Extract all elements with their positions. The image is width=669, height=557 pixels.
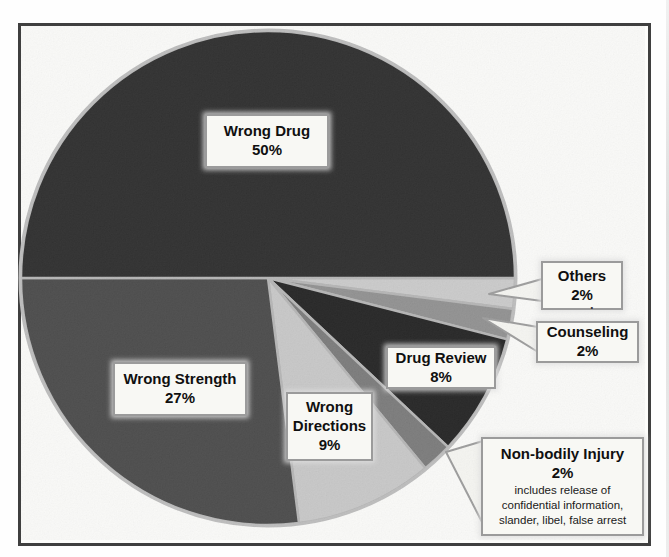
counseling-label-box: Counseling 2% xyxy=(536,321,639,363)
non-bodily-injury-percent: 2% xyxy=(489,464,636,483)
wrong-directions-percent: 9% xyxy=(291,436,368,455)
counseling-label: Counseling xyxy=(541,323,634,342)
wrong-strength-percent: 27% xyxy=(118,389,242,408)
wrong-directions-label: Wrong Directions xyxy=(291,398,368,436)
wrong-drug-percent: 50% xyxy=(210,141,324,160)
scanned-pie-chart-page: Wrong Drug 50% Wrong Strength 27% Wrong … xyxy=(0,0,669,557)
non-bodily-injury-label-box: Non-bodily Injury 2% includes release of… xyxy=(481,437,644,536)
drug-review-label-box: Drug Review 8% xyxy=(386,346,496,389)
drug-review-label: Drug Review xyxy=(391,349,491,368)
others-label: Others xyxy=(546,267,618,286)
non-bodily-injury-note: includes release of confidential informa… xyxy=(489,483,636,528)
wrong-strength-label: Wrong Strength xyxy=(118,370,242,389)
stray-print-mark: . xyxy=(590,301,594,309)
counseling-percent: 2% xyxy=(541,342,634,361)
drug-review-percent: 8% xyxy=(391,368,491,387)
wrong-strength-label-box: Wrong Strength 27% xyxy=(113,362,247,416)
wrong-drug-label: Wrong Drug xyxy=(210,122,324,141)
others-label-box: Others 2% . xyxy=(541,261,623,310)
wrong-drug-label-box: Wrong Drug 50% xyxy=(205,114,329,168)
non-bodily-injury-label: Non-bodily Injury xyxy=(489,445,636,464)
wrong-directions-label-box: Wrong Directions 9% xyxy=(286,392,373,461)
others-percent: 2% xyxy=(546,286,618,305)
